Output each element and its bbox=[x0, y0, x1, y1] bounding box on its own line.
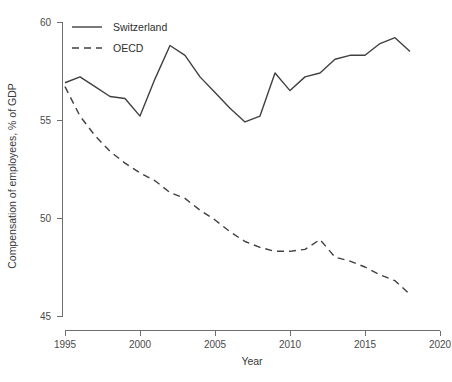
legend-label-oecd: OECD bbox=[113, 42, 144, 54]
y-tick-label: 55 bbox=[40, 115, 52, 126]
x-tick-label: 2020 bbox=[429, 339, 452, 350]
y-tick-label: 50 bbox=[40, 213, 52, 224]
legend-label-switzerland: Switzerland bbox=[113, 21, 167, 33]
x-tick-label: 1995 bbox=[54, 339, 77, 350]
y-axis-ticks: 45505560 bbox=[40, 17, 63, 322]
chart-figure: 45505560 199520002005201020152020 Year C… bbox=[0, 0, 452, 382]
y-tick-label: 45 bbox=[40, 311, 52, 322]
line-chart: 45505560 199520002005201020152020 Year C… bbox=[0, 0, 452, 382]
y-tick-label: 60 bbox=[40, 17, 52, 28]
chart-legend: SwitzerlandOECD bbox=[72, 21, 167, 54]
x-tick-label: 2010 bbox=[279, 339, 302, 350]
x-tick-label: 2005 bbox=[204, 339, 227, 350]
data-series-group bbox=[65, 38, 410, 295]
x-axis-title: Year bbox=[241, 355, 263, 367]
x-axis-ticks: 199520002005201020152020 bbox=[54, 331, 452, 351]
series-line-oecd bbox=[65, 87, 410, 295]
x-tick-label: 2000 bbox=[129, 339, 152, 350]
y-axis-title: Compensation of employees, % of GDP bbox=[6, 83, 18, 269]
x-tick-label: 2015 bbox=[354, 339, 377, 350]
